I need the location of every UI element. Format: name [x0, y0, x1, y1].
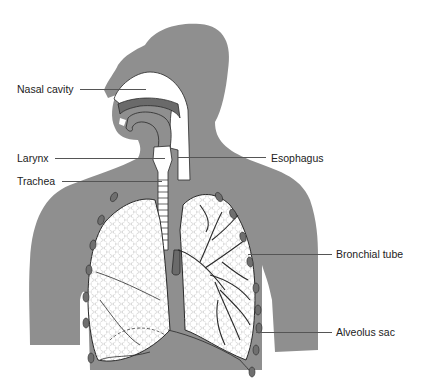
label-nasal-cavity: Nasal cavity [17, 83, 74, 95]
leader-nasal-cavity [80, 89, 146, 90]
leader-esophagus [178, 157, 266, 158]
label-alveolus-sac: Alveolus sac [336, 326, 395, 338]
respiratory-diagram: Nasal cavity Larynx Trachea Esophagus Br… [0, 0, 421, 391]
leader-larynx [55, 158, 165, 159]
label-bronchial-tube: Bronchial tube [336, 248, 403, 260]
label-larynx: Larynx [17, 152, 49, 164]
leader-alveolus-sac [256, 332, 332, 333]
label-trachea: Trachea [17, 175, 55, 187]
body-silhouette [29, 24, 318, 370]
leader-bronchial-tube [248, 254, 332, 255]
leader-trachea [62, 181, 162, 182]
label-esophagus: Esophagus [271, 152, 324, 164]
